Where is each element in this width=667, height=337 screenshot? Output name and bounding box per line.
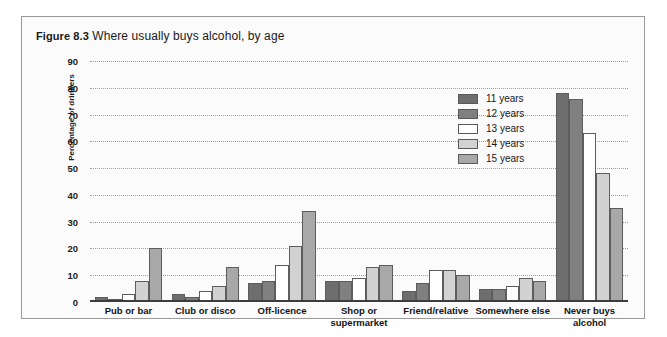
bar (443, 270, 457, 302)
y-axis-tick-label: 80 (67, 82, 78, 93)
figure-title: Figure 8.3 Where usually buys alcohol, b… (36, 29, 284, 43)
legend-swatch (458, 94, 478, 104)
bar (339, 281, 353, 302)
bar (366, 267, 380, 302)
legend-swatch (458, 124, 478, 134)
y-axis-tick-labels: 0102030405060708090 (22, 61, 84, 302)
x-axis-category-labels: Pub or barClub or discoOff-licenceShop o… (90, 305, 628, 337)
legend-label: 13 years (486, 123, 524, 134)
y-axis-tick-label: 60 (67, 136, 78, 147)
bar (325, 281, 339, 302)
x-axis-category-label: Never buys alcohol (551, 305, 628, 328)
x-axis-category-label: Off-licence (244, 305, 321, 317)
plot-area (90, 61, 628, 302)
figure-panel: Figure 8.3 Where usually buys alcohol, b… (21, 16, 645, 319)
x-axis-category-label: Somewhere else (474, 305, 551, 317)
legend-label: 12 years (486, 108, 524, 119)
legend-label: 15 years (486, 153, 524, 164)
bar (262, 281, 276, 302)
y-axis-tick-label: 10 (67, 270, 78, 281)
y-axis-tick-label: 0 (73, 297, 78, 308)
bar (569, 99, 583, 303)
legend-swatch (458, 139, 478, 149)
bar (583, 133, 597, 302)
legend-label: 11 years (486, 93, 524, 104)
legend-swatch (458, 109, 478, 119)
bar (429, 270, 443, 302)
bar (275, 265, 289, 302)
bar (596, 173, 610, 302)
figure-caption: Where usually buys alcohol, by age (92, 29, 284, 43)
y-axis-tick-label: 20 (67, 243, 78, 254)
x-axis-line (90, 300, 628, 302)
bar (533, 281, 547, 302)
legend-item: 12 years (458, 106, 524, 121)
bar (226, 267, 240, 302)
bar (352, 278, 366, 302)
x-axis-category-label: Pub or bar (90, 305, 167, 317)
bar (610, 208, 624, 302)
bar-group (325, 61, 393, 302)
bar (456, 275, 470, 302)
bar (149, 248, 163, 302)
legend-swatch (458, 154, 478, 164)
legend-item: 13 years (458, 121, 524, 136)
bar (519, 278, 533, 302)
bar-group (248, 61, 316, 302)
y-axis-tick-label: 90 (67, 56, 78, 67)
y-axis-tick-label: 50 (67, 163, 78, 174)
chart-legend: 11 years12 years13 years14 years15 years (458, 91, 524, 166)
bar-group (95, 61, 163, 302)
bars-layer (90, 61, 628, 302)
bar (302, 211, 316, 302)
x-axis-category-label: Shop or supermarket (321, 305, 398, 328)
bar (135, 281, 149, 302)
figure-number: Figure 8.3 (36, 30, 89, 42)
legend-item: 15 years (458, 151, 524, 166)
bar (289, 246, 303, 302)
legend-label: 14 years (486, 138, 524, 149)
legend-item: 11 years (458, 91, 524, 106)
x-axis-category-label: Friend/relative (397, 305, 474, 317)
bar (379, 265, 393, 302)
y-axis-tick-label: 40 (67, 189, 78, 200)
y-axis-tick-label: 30 (67, 216, 78, 227)
x-axis-category-label: Club or disco (167, 305, 244, 317)
legend-item: 14 years (458, 136, 524, 151)
bar-group (172, 61, 240, 302)
bar (556, 93, 570, 302)
y-axis-tick-label: 70 (67, 109, 78, 120)
bar-group (556, 61, 624, 302)
